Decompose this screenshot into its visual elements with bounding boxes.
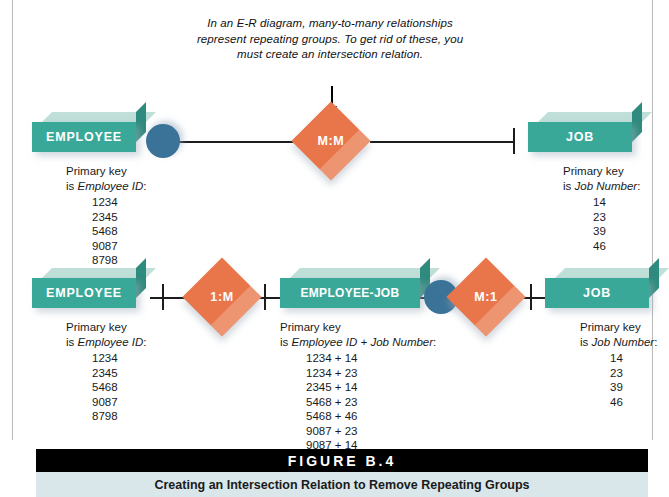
keyblock-job-bottom: Primary key is Job Number: 14233946 (580, 320, 657, 409)
key-line-1: Primary key (580, 320, 657, 335)
key-suffix: : (143, 180, 146, 192)
entity-label: JOB (528, 122, 632, 152)
key-value: 1234 (92, 195, 147, 210)
page-rule-left (12, 0, 13, 440)
keyblock-job-top: Primary key is Job Number: 14233946 (563, 164, 640, 253)
key-values: 14233946 (580, 351, 657, 409)
key-line-1: Primary key (280, 320, 436, 335)
key-field: Job Number (575, 180, 638, 192)
key-value: 1234 + 14 (306, 351, 436, 366)
entity-employee-top[interactable]: EMPLOYEE (32, 112, 136, 142)
key-value: 2345 (92, 366, 147, 381)
entity-side-face (136, 102, 146, 142)
relationship-label: M:1 (447, 258, 525, 336)
figure-caption: Creating an Intersection Relation to Rem… (154, 478, 529, 492)
key-line-1: Primary key (66, 320, 147, 335)
relationship-label: 1:M (183, 258, 261, 336)
wire-top-right (370, 141, 515, 143)
figure-number-bar: FIGURE B.4 (36, 449, 648, 472)
relationship-m1[interactable]: M:1 (447, 258, 525, 336)
key-value: 5468 (92, 380, 147, 395)
entity-employee-bottom[interactable]: EMPLOYEE (32, 268, 136, 298)
entity-side-face (632, 102, 642, 142)
figure-number: FIGURE B.4 (288, 453, 397, 469)
key-prefix: is (280, 336, 292, 348)
entity-label: EMPLOYEE (32, 278, 136, 308)
key-value: 23 (610, 366, 657, 381)
relationship-1m[interactable]: 1:M (183, 258, 261, 336)
entity-top-face (290, 268, 440, 278)
key-suffix: : (433, 336, 436, 348)
connector-many-circle-top (146, 124, 180, 158)
key-value: 46 (593, 239, 640, 254)
entity-label: JOB (545, 278, 649, 308)
key-line-2: is Employee ID: (66, 335, 147, 350)
key-line-2: is Job Number: (563, 179, 640, 194)
figure-caption-band: Creating an Intersection Relation to Rem… (36, 472, 648, 497)
keyblock-employee-job: Primary key is Employee ID + Job Number:… (280, 320, 436, 467)
entity-employee-job[interactable]: EMPLOYEE-JOB (280, 268, 420, 298)
entity-label: EMPLOYEE (32, 122, 136, 152)
key-prefix: is (580, 336, 592, 348)
connector-one-tick-bottom-2 (264, 284, 266, 310)
key-line-1: Primary key (66, 164, 147, 179)
connector-one-tick-bottom-1 (162, 284, 164, 310)
entity-job-top[interactable]: JOB (528, 112, 632, 142)
entity-side-face (649, 258, 659, 298)
key-values: 14233946 (563, 195, 640, 253)
key-value: 39 (593, 224, 640, 239)
key-value: 1234 + 23 (306, 366, 436, 381)
relationship-mm[interactable]: M:M (292, 102, 370, 180)
key-prefix: is (66, 180, 78, 192)
key-values: 12342345546890878798 (66, 351, 147, 424)
entity-job-bottom[interactable]: JOB (545, 268, 649, 298)
annotation-note: In an E-R diagram, many-to-many relation… (196, 16, 464, 63)
key-field: Job Number (592, 336, 655, 348)
key-line-1: Primary key (563, 164, 640, 179)
keyblock-employee-top: Primary key is Employee ID: 123423455468… (66, 164, 147, 268)
key-value: 5468 (92, 224, 147, 239)
key-value: 14 (610, 351, 657, 366)
key-field: Employee ID (78, 180, 144, 192)
key-line-2: is Job Number: (580, 335, 657, 350)
key-prefix: is (66, 336, 78, 348)
key-value: 2345 (92, 210, 147, 225)
key-value: 2345 + 14 (306, 380, 436, 395)
key-value: 5468 + 23 (306, 395, 436, 410)
connector-one-tick-bottom-3 (530, 284, 532, 310)
key-field: Employee ID (78, 336, 144, 348)
key-value: 1234 (92, 351, 147, 366)
key-value: 14 (593, 195, 640, 210)
figure-page: In an E-R diagram, many-to-many relation… (0, 0, 669, 497)
key-value: 5468 + 46 (306, 409, 436, 424)
key-values: 12342345546890878798 (66, 195, 147, 268)
key-line-2: is Employee ID + Job Number: (280, 335, 436, 350)
key-value: 39 (610, 380, 657, 395)
key-prefix: is (563, 180, 575, 192)
key-field: Employee ID + Job Number (292, 336, 434, 348)
key-value: 9087 (92, 239, 147, 254)
key-value: 9087 (92, 395, 147, 410)
connector-one-tick-top (513, 128, 515, 154)
key-suffix: : (654, 336, 657, 348)
key-suffix: : (143, 336, 146, 348)
key-value: 46 (610, 395, 657, 410)
key-value: 23 (593, 210, 640, 225)
entity-label: EMPLOYEE-JOB (280, 278, 420, 308)
key-value: 9087 + 23 (306, 424, 436, 439)
key-line-2: is Employee ID: (66, 179, 147, 194)
relationship-label: M:M (292, 102, 370, 180)
keyblock-employee-bottom: Primary key is Employee ID: 123423455468… (66, 320, 147, 424)
key-suffix: : (637, 180, 640, 192)
key-value: 8798 (92, 409, 147, 424)
